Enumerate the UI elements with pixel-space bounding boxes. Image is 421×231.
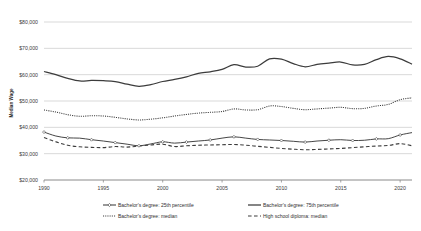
y-axis-title: Median Wage xyxy=(9,88,14,118)
y-axis-tick-label: $20,000 xyxy=(19,177,38,183)
data-point-marker xyxy=(280,139,283,142)
y-axis-tick-label: $40,000 xyxy=(19,124,38,130)
data-point-marker xyxy=(185,141,188,144)
x-axis-tick-label: 2020 xyxy=(394,185,406,191)
x-axis-tick-label: 2000 xyxy=(157,185,169,191)
legend-item-label[interactable]: Bachelor's degree: 75th percentile xyxy=(263,202,339,208)
x-axis-tick-label: 1990 xyxy=(38,185,50,191)
x-axis-tick-label: 2015 xyxy=(335,185,347,191)
y-axis-tick-label: $50,000 xyxy=(19,98,38,104)
data-point-marker xyxy=(209,138,212,141)
x-axis-tick-label: 1995 xyxy=(98,185,110,191)
legend-item-label[interactable]: High school diploma: median xyxy=(263,213,327,219)
data-point-marker xyxy=(137,144,140,147)
legend-marker-icon xyxy=(108,203,111,206)
x-axis-line xyxy=(44,180,412,183)
x-axis-tick-label: 2010 xyxy=(276,185,288,191)
chart-legend: Bachelor's degree: 25th percentileBachel… xyxy=(103,202,339,219)
data-point-marker xyxy=(327,139,330,142)
chart-canvas: $20,000$30,000$40,000$50,000$60,000$70,0… xyxy=(0,0,421,231)
series-line xyxy=(44,138,412,150)
wage-line-chart: $20,000$30,000$40,000$50,000$60,000$70,0… xyxy=(0,0,421,231)
y-axis-tick-label: $30,000 xyxy=(19,151,38,157)
data-point-marker xyxy=(399,133,402,136)
y-axis-tick-label: $80,000 xyxy=(19,19,38,25)
x-axis-tick-label: 2005 xyxy=(216,185,228,191)
series-line xyxy=(44,132,412,146)
data-point-marker xyxy=(375,137,378,140)
data-point-marker xyxy=(43,131,46,134)
data-series-layer xyxy=(44,56,412,149)
y-axis-tick-labels: $20,000$30,000$40,000$50,000$60,000$70,0… xyxy=(19,19,38,183)
data-point-markers xyxy=(43,131,402,148)
data-point-marker xyxy=(351,139,354,142)
data-point-marker xyxy=(304,141,307,144)
data-point-marker xyxy=(66,136,69,139)
y-axis-tick-label: $70,000 xyxy=(19,45,38,51)
data-point-marker xyxy=(232,135,235,138)
y-axis-tick-label: $60,000 xyxy=(19,72,38,78)
x-axis-tick-labels: 1990199520002005201020152020 xyxy=(38,185,406,191)
gridlines xyxy=(44,22,412,180)
series-line xyxy=(44,56,412,86)
legend-item-label[interactable]: Bachelor's degree: median xyxy=(118,213,178,219)
data-point-marker xyxy=(90,138,93,141)
legend-item-label[interactable]: Bachelor's degree: 25th percentile xyxy=(118,202,194,208)
data-point-marker xyxy=(256,138,259,141)
data-point-marker xyxy=(161,140,164,143)
data-point-marker xyxy=(114,141,117,144)
